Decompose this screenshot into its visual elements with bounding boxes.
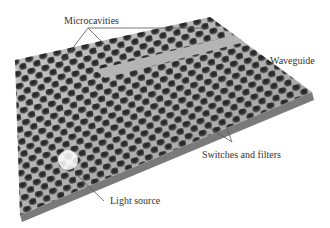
light-source-glow [58,150,78,170]
crystal-slab-illustration [0,0,330,228]
label-waveguide: Waveguide [270,56,315,66]
photonic-crystal-diagram: Microcavities Waveguide Switches and fil… [0,0,330,228]
label-switches-filters: Switches and filters [202,150,281,160]
label-light-source: Light source [110,196,160,206]
label-microcavities: Microcavities [64,16,119,26]
hole-lattice [0,0,330,228]
